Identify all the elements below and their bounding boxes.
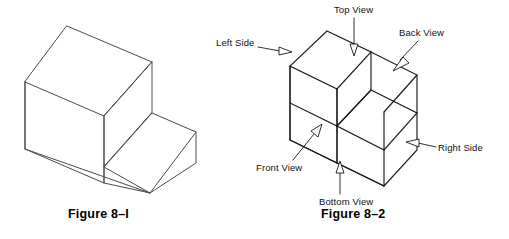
figure-1-caption: Figure 8–I	[68, 207, 129, 221]
label-top-view: Top View	[334, 4, 373, 15]
label-right-side: Right Side	[438, 142, 483, 153]
leader-left-side	[258, 47, 292, 55]
figure-2-caption: Figure 8–2	[321, 207, 386, 221]
label-left-side: Left Side	[216, 37, 254, 48]
label-bottom-view: Bottom View	[319, 196, 373, 207]
leader-front-view	[293, 124, 322, 160]
figure-1-solid	[25, 26, 196, 193]
leader-top-view	[350, 18, 358, 56]
label-back-view: Back View	[399, 27, 444, 38]
leader-back-view	[393, 41, 418, 71]
leader-right-side	[406, 139, 436, 147]
label-front-view: Front View	[256, 162, 302, 173]
drawing-page: Top View Back View Left Side Right Side …	[0, 0, 509, 239]
